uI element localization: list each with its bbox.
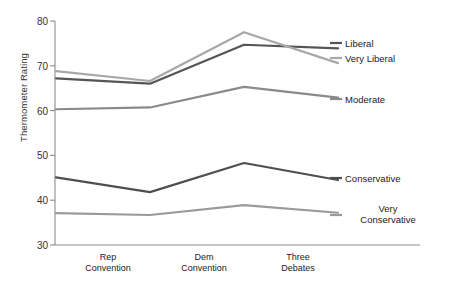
series-line-very-conservative <box>56 205 338 215</box>
x-tick-rep-convention-line1: Rep <box>85 252 131 263</box>
series-layer <box>56 32 338 215</box>
legend-dashes <box>330 43 342 215</box>
x-tick-three-debates: Three Debates <box>281 252 315 274</box>
legend-label-conservative: Conservative <box>345 173 400 184</box>
x-tick-rep-convention: Rep Convention <box>85 252 131 274</box>
plot-area <box>0 0 449 291</box>
x-tick-three-debates-line1: Three <box>281 252 315 263</box>
legend-label-liberal: Liberal <box>345 38 374 49</box>
series-line-moderate <box>56 87 338 109</box>
x-tick-dem-convention-line2: Convention <box>181 263 227 274</box>
legend-label-moderate: Moderate <box>345 94 385 105</box>
series-line-very-liberal <box>56 32 338 81</box>
x-tick-rep-convention-line2: Convention <box>85 263 131 274</box>
x-tick-dem-convention-line1: Dem <box>181 252 227 263</box>
line-chart: Thermometer Rating 80 70 60 50 40 30 Rep… <box>0 0 449 291</box>
legend-label-very-conservative-line1: Very <box>345 203 431 214</box>
series-line-liberal <box>56 45 338 84</box>
legend-label-very-liberal: Very Liberal <box>345 53 395 64</box>
legend-label-very-conservative-line2: Conservative <box>345 214 431 225</box>
x-tick-dem-convention: Dem Convention <box>181 252 227 274</box>
x-tick-three-debates-line2: Debates <box>281 263 315 274</box>
legend-label-very-conservative: Very Conservative <box>345 203 431 225</box>
series-line-conservative <box>56 163 338 192</box>
